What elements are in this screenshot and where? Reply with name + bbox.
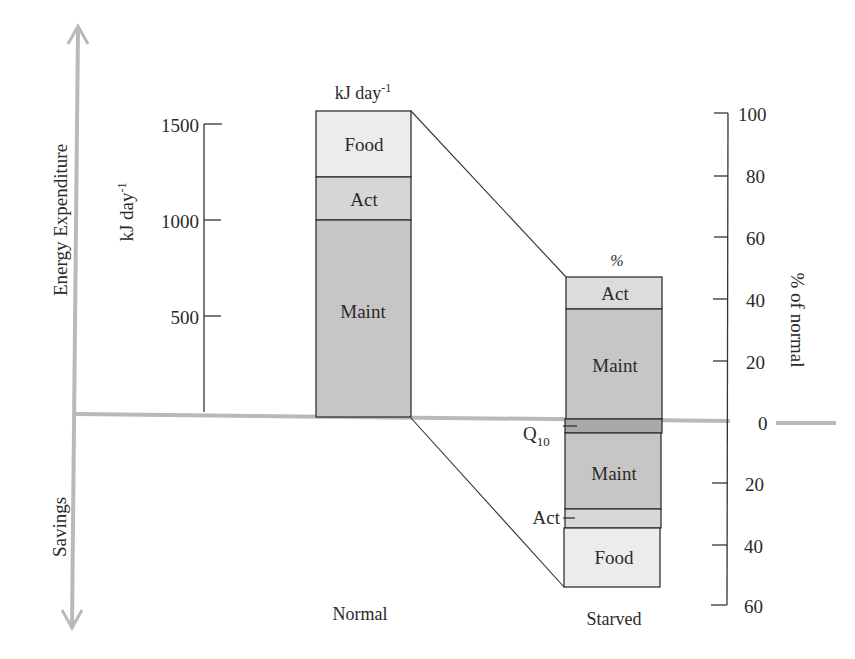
starved-q10-segment	[565, 419, 662, 433]
starved-bar: % Act Maint Maint Food Q10 Act Starved	[523, 252, 662, 629]
right-percent-axis: 100 80 60 40 20 0 20 40 60 % of normal	[711, 104, 808, 617]
savings-label: Savings	[49, 497, 70, 557]
normal-food-label: Food	[344, 134, 384, 155]
tick-pct-0: 0	[758, 413, 768, 434]
energy-expenditure-label: Energy Expenditure	[50, 144, 71, 296]
savings-food-label: Food	[594, 547, 634, 568]
tick-pct-100: 100	[738, 104, 767, 125]
tick-pct-neg60: 60	[744, 596, 763, 617]
savings-act-segment	[565, 509, 661, 528]
normal-bar: kJ day-1 Food Act Maint Normal	[316, 81, 411, 624]
normal-bar-header: kJ day-1	[335, 81, 392, 103]
tick-pct-80: 80	[746, 166, 765, 187]
normal-category-label: Normal	[333, 604, 388, 624]
savings-act-callout: Act	[533, 507, 561, 528]
svg-text:kJ day-1: kJ day-1	[115, 182, 137, 241]
tick-pct-20: 20	[746, 352, 765, 373]
left-kj-axis: 1500 1000 500 kJ day-1	[115, 115, 222, 412]
right-axis-title: % of normal	[787, 273, 808, 368]
normal-act-label: Act	[350, 189, 378, 210]
left-axis-title: kJ day-1	[115, 182, 137, 241]
tick-pct-neg20: 20	[745, 474, 764, 495]
starved-bar-header: %	[610, 252, 623, 269]
tick-pct-40: 40	[746, 290, 765, 311]
tick-1500: 1500	[161, 115, 199, 136]
normal-maint-label: Maint	[340, 301, 386, 322]
starved-maint-label: Maint	[592, 355, 638, 376]
tick-500: 500	[171, 307, 200, 328]
tick-1000: 1000	[161, 211, 199, 232]
q10-label: Q10	[523, 423, 550, 449]
top-connector-line	[411, 111, 566, 277]
tick-pct-neg40: 40	[744, 536, 763, 557]
energy-budget-diagram: Energy Expenditure Savings 1500 1000 500…	[0, 0, 855, 659]
starved-act-label: Act	[601, 283, 629, 304]
savings-maint-label: Maint	[591, 463, 637, 484]
tick-pct-60: 60	[746, 228, 765, 249]
starved-category-label: Starved	[587, 609, 642, 629]
